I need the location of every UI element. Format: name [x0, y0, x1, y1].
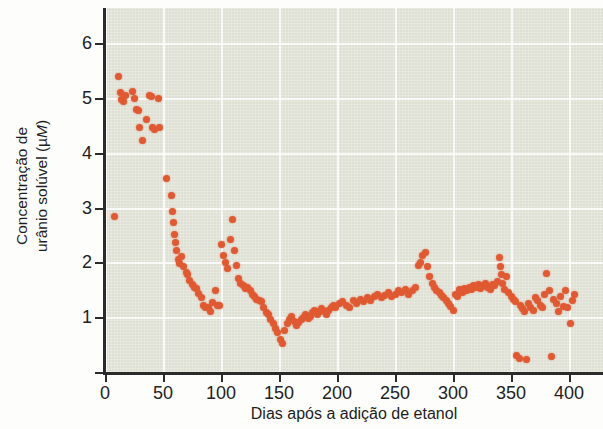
y-axis-tick-label: 2	[70, 253, 92, 271]
x-axis-tick-label: 300	[423, 384, 483, 402]
x-axis-tick	[453, 373, 455, 382]
y-axis-tick-label: 6	[70, 34, 92, 52]
y-axis-label: Concentração de urânio solúvel (µM)	[12, 120, 52, 252]
data-point	[131, 95, 138, 102]
data-point	[530, 307, 537, 314]
data-point	[523, 356, 530, 363]
data-point	[346, 304, 353, 311]
data-point	[516, 355, 523, 362]
y-axis-tick-label: 3	[70, 199, 92, 217]
data-point	[168, 192, 175, 199]
data-point	[135, 107, 142, 114]
data-point	[172, 239, 179, 246]
y-axis-label-line-2: urânio solúvel (µM)	[32, 120, 52, 252]
x-axis-tick-label: 0	[75, 384, 135, 402]
data-point	[111, 213, 118, 220]
plot-area	[105, 8, 603, 372]
data-point	[169, 208, 176, 215]
x-axis-tick-label: 50	[133, 384, 193, 402]
data-point	[229, 216, 236, 223]
data-point	[136, 124, 143, 131]
y-axis-tick-label: 1	[70, 308, 92, 326]
data-point	[503, 273, 510, 280]
data-point	[171, 231, 178, 238]
gridline-horizontal	[105, 153, 603, 155]
data-point	[170, 219, 177, 226]
data-point	[129, 88, 136, 95]
data-point	[562, 287, 569, 294]
x-axis-tick	[511, 373, 513, 382]
data-point	[497, 263, 504, 270]
y-axis-tick	[95, 43, 104, 45]
y-axis-tick-label: 5	[70, 89, 92, 107]
data-point	[496, 254, 503, 261]
data-point	[231, 247, 238, 254]
data-point	[424, 263, 431, 270]
data-point	[227, 236, 234, 243]
x-axis-tick	[105, 373, 107, 382]
gridline-horizontal	[105, 98, 603, 100]
x-axis-tick	[279, 373, 281, 382]
data-point	[218, 241, 225, 248]
x-axis-tick	[163, 373, 165, 382]
x-axis-line	[103, 372, 603, 375]
data-point	[426, 273, 433, 280]
x-axis-label: Dias após a adição de etanol	[105, 405, 603, 423]
data-point	[450, 307, 457, 314]
y-axis-tick	[95, 317, 104, 319]
x-axis-tick	[395, 373, 397, 382]
scatter-plot-figure: 123456 050100150200250300350400 Concentr…	[0, 0, 603, 429]
gridline-horizontal	[105, 43, 603, 45]
y-axis-tick	[95, 372, 104, 374]
y-axis-tick	[95, 262, 104, 264]
x-axis-tick-label: 250	[365, 384, 425, 402]
data-point	[571, 291, 578, 298]
x-axis-tick	[221, 373, 223, 382]
data-point	[212, 287, 219, 294]
x-axis-tick-label: 200	[307, 384, 367, 402]
data-point	[224, 265, 231, 272]
data-point	[122, 92, 129, 99]
x-axis-tick-label: 100	[191, 384, 251, 402]
y-axis-label-line-2-suffix: )	[33, 120, 50, 125]
data-point	[539, 304, 546, 311]
x-axis-tick-label: 150	[249, 384, 309, 402]
y-axis-tick-label: 4	[70, 144, 92, 162]
y-axis-tick	[95, 98, 104, 100]
y-axis-label-line-2-prefix: urânio solúvel (µ	[33, 138, 50, 252]
data-point	[412, 284, 419, 291]
data-point	[156, 124, 163, 131]
x-axis-tick	[569, 373, 571, 382]
data-point	[553, 300, 560, 307]
data-point	[279, 340, 286, 347]
gridline-horizontal	[105, 317, 603, 319]
data-point	[233, 262, 240, 269]
data-point	[548, 353, 555, 360]
data-point	[543, 270, 550, 277]
data-point	[120, 98, 127, 105]
data-point	[569, 297, 576, 304]
data-point	[417, 259, 424, 266]
data-point	[163, 175, 170, 182]
data-point	[281, 327, 288, 334]
y-axis-label-line-1: Concentração de	[12, 120, 32, 252]
y-axis-tick	[95, 153, 104, 155]
data-point	[422, 249, 429, 256]
data-point	[216, 302, 223, 309]
data-point	[178, 253, 185, 260]
x-axis-tick-label: 400	[539, 384, 599, 402]
data-point	[546, 287, 553, 294]
x-axis-tick-label: 350	[481, 384, 541, 402]
data-point	[567, 320, 574, 327]
data-point	[139, 137, 146, 144]
y-axis-label-unit-molar: M	[33, 125, 50, 138]
data-point	[155, 95, 162, 102]
gridline-horizontal	[105, 208, 603, 210]
data-point	[207, 308, 214, 315]
y-axis-label-container: Concentração de urânio solúvel (µM)	[6, 0, 58, 372]
data-point	[143, 116, 150, 123]
x-axis-tick	[337, 373, 339, 382]
data-point	[557, 293, 564, 300]
y-axis-tick	[95, 208, 104, 210]
data-point	[198, 294, 205, 301]
